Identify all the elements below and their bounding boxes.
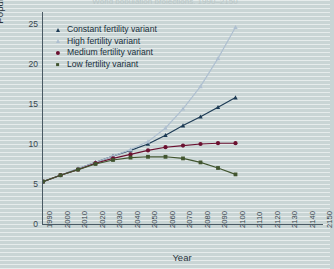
- data-point-marker: [181, 144, 185, 148]
- legend-item[interactable]: Low fertility variant: [53, 59, 157, 71]
- circle-marker-icon: [53, 48, 62, 57]
- data-point-marker: [111, 158, 115, 162]
- data-point-marker: [43, 180, 45, 184]
- triangle-marker-icon: [53, 37, 62, 46]
- legend-item-label: High fertility variant: [67, 36, 140, 48]
- x-tick-label: 2150: [325, 211, 334, 228]
- legend-item-label: Medium fertility variant: [67, 47, 153, 59]
- data-point-marker: [129, 156, 133, 160]
- legend-item-label: Constant fertility variant: [67, 24, 157, 36]
- data-point-marker: [164, 155, 168, 159]
- triangle-marker-icon: [53, 25, 62, 34]
- chart-legend: Constant fertility variantHigh fertility…: [53, 24, 157, 70]
- legend-item[interactable]: High fertility variant: [53, 36, 157, 48]
- data-point-marker: [198, 142, 202, 146]
- data-point-marker: [181, 157, 185, 161]
- square-marker-icon: [53, 60, 62, 69]
- legend-item-label: Low fertility variant: [67, 59, 138, 71]
- series-medium-fertility-variant: [43, 141, 238, 184]
- data-point-marker: [163, 145, 167, 149]
- legend-item[interactable]: Medium fertility variant: [53, 47, 157, 59]
- data-point-marker: [146, 148, 150, 152]
- data-point-marker: [216, 166, 220, 170]
- series-line: [43, 98, 236, 182]
- data-point-marker: [233, 95, 237, 99]
- series-line: [43, 143, 236, 181]
- legend-item[interactable]: Constant fertility variant: [53, 24, 157, 36]
- data-point-marker: [94, 162, 98, 166]
- data-point-marker: [146, 155, 150, 159]
- data-point-marker: [76, 168, 80, 172]
- series-constant-fertility-variant: [43, 95, 238, 183]
- data-point-marker: [216, 141, 220, 145]
- data-point-marker: [234, 173, 238, 177]
- series-low-fertility-variant: [43, 155, 237, 184]
- data-point-marker: [59, 173, 63, 177]
- data-point-marker: [199, 161, 203, 165]
- series-line: [43, 157, 236, 182]
- data-point-marker: [233, 25, 237, 29]
- data-point-marker: [233, 141, 237, 145]
